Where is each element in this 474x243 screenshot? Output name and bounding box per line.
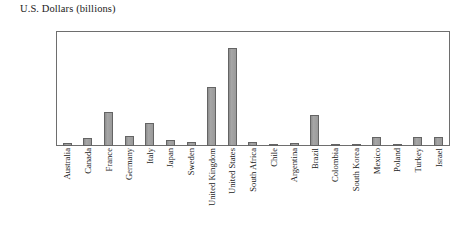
bar-slot: [305, 32, 326, 146]
bar: [145, 123, 154, 146]
x-label-slot: Chile: [263, 148, 284, 243]
bar: [269, 144, 278, 146]
bar: [352, 144, 361, 146]
x-axis-tick-label: Germany: [125, 148, 134, 180]
bar-slot: [325, 32, 346, 146]
bar: [228, 48, 237, 146]
bar: [290, 143, 299, 146]
x-axis-tick-label: Italy: [146, 148, 155, 164]
x-axis-tick-label: Japan: [166, 148, 175, 168]
bar: [331, 144, 340, 146]
bar-slot: [201, 32, 222, 146]
x-label-slot: Germany: [119, 148, 140, 243]
bar: [104, 112, 113, 147]
x-axis-tick-label: Brazil: [311, 148, 320, 169]
bar-slot: [222, 32, 243, 146]
bar-slot: [346, 32, 367, 146]
bar: [372, 137, 381, 146]
x-label-slot: Brazil: [305, 148, 326, 243]
x-axis-tick-label: Sweden: [187, 148, 196, 175]
x-label-slot: Argentina: [284, 148, 305, 243]
x-axis-tick-label: South Africa: [249, 148, 258, 192]
x-label-slot: Israel: [428, 148, 449, 243]
x-label-slot: Canada: [78, 148, 99, 243]
x-label-slot: South Korea: [346, 148, 367, 243]
bar: [310, 115, 319, 146]
x-axis-tick-label: Poland: [393, 148, 402, 172]
y-axis: 0100200300400500600700800: [0, 0, 56, 146]
bar-slot: [57, 32, 78, 146]
bars-container: [57, 32, 449, 146]
bar: [393, 144, 402, 146]
x-label-slot: Italy: [140, 148, 161, 243]
bar-chart: U.S. Dollars (billions) 0100200300400500…: [0, 0, 474, 243]
bar: [248, 142, 257, 146]
x-axis-tick-label: France: [104, 148, 113, 171]
x-label-slot: United Kingdom: [201, 148, 222, 243]
x-axis-tick-label: Argentina: [290, 148, 299, 182]
bar-slot: [119, 32, 140, 146]
x-axis-tick-label: United States: [228, 148, 237, 194]
bar-slot: [140, 32, 161, 146]
x-label-slot: Sweden: [181, 148, 202, 243]
bar-slot: [408, 32, 429, 146]
x-axis-tick-label: Colombia: [331, 148, 340, 182]
x-label-slot: France: [98, 148, 119, 243]
x-axis-tick-label: United Kingdom: [207, 148, 216, 206]
bar: [125, 136, 134, 146]
x-axis-tick-label: Israel: [434, 148, 443, 167]
x-axis-tick-label: Turkey: [414, 148, 423, 173]
bar-slot: [366, 32, 387, 146]
bar-slot: [181, 32, 202, 146]
x-label-slot: Turkey: [408, 148, 429, 243]
x-label-slot: Australia: [57, 148, 78, 243]
bar: [83, 138, 92, 146]
x-label-slot: United States: [222, 148, 243, 243]
x-label-slot: Colombia: [325, 148, 346, 243]
x-axis-tick-label: Canada: [84, 148, 93, 174]
x-axis-tick-label: Chile: [269, 148, 278, 167]
bar: [207, 87, 216, 146]
bar-slot: [387, 32, 408, 146]
bar-slot: [263, 32, 284, 146]
x-label-slot: Japan: [160, 148, 181, 243]
x-axis-tick-label: South Korea: [352, 148, 361, 191]
bar: [187, 142, 196, 146]
bar: [166, 140, 175, 146]
x-label-slot: Poland: [387, 148, 408, 243]
x-label-slot: South Africa: [243, 148, 264, 243]
bar-slot: [78, 32, 99, 146]
bar-slot: [428, 32, 449, 146]
x-axis-tick-label: Australia: [63, 148, 72, 180]
bar-slot: [160, 32, 181, 146]
bar: [63, 143, 72, 146]
x-axis-tick-label: Mexico: [372, 148, 381, 174]
bar-slot: [243, 32, 264, 146]
x-axis-labels: AustraliaCanadaFranceGermanyItalyJapanSw…: [57, 148, 449, 243]
bar: [434, 137, 443, 146]
bar-slot: [284, 32, 305, 146]
bar-slot: [98, 32, 119, 146]
bar: [413, 137, 422, 146]
x-label-slot: Mexico: [366, 148, 387, 243]
